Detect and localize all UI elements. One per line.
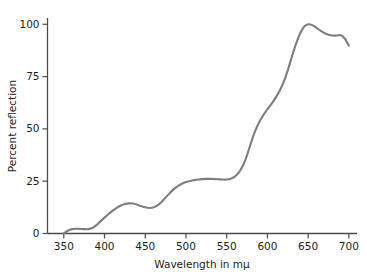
- y-tick-label: 75: [26, 70, 39, 82]
- y-tick-label: 50: [26, 122, 39, 134]
- y-tick-label: 100: [19, 18, 39, 30]
- reflectance-chart: 0255075100 350400450500550600650700 Wave…: [0, 0, 367, 277]
- x-tick-label: 700: [339, 240, 359, 252]
- x-tick-label: 450: [135, 240, 155, 252]
- x-axis-ticks: 350400450500550600650700: [54, 234, 359, 252]
- y-tick-label: 0: [33, 227, 40, 239]
- x-tick-label: 600: [257, 240, 277, 252]
- chart-canvas: 0255075100 350400450500550600650700 Wave…: [0, 0, 367, 277]
- y-axis-title: Percent reflection: [6, 80, 18, 172]
- y-tick-label: 25: [26, 175, 39, 187]
- x-tick-label: 550: [217, 240, 237, 252]
- x-tick-label: 350: [54, 240, 74, 252]
- x-axis-title: Wavelength in mμ: [154, 258, 250, 270]
- x-tick-label: 650: [298, 240, 318, 252]
- y-axis-ticks: 0255075100: [19, 18, 47, 239]
- x-tick-label: 500: [176, 240, 196, 252]
- x-tick-label: 400: [94, 240, 114, 252]
- reflectance-curve: [64, 24, 349, 233]
